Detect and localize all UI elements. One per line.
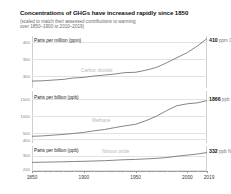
xlabel-2000: 2000 bbox=[182, 175, 193, 180]
end-unit-n2o: ppb bbox=[219, 149, 227, 154]
figure-title: Concentrations of GHGs have increased ra… bbox=[20, 9, 225, 16]
xtick-minor-1930 bbox=[115, 171, 116, 172]
xtick-minor-1970 bbox=[156, 171, 157, 172]
xtick-minor-1960 bbox=[146, 171, 147, 172]
end-species-n2o: N2O bbox=[228, 149, 231, 154]
ytick-co2-300: 300 bbox=[14, 74, 30, 79]
xlabel-1950: 1950 bbox=[130, 175, 141, 180]
end-value-label-n2o: 332 ppb N2O bbox=[209, 148, 231, 156]
xtick-1850 bbox=[32, 171, 33, 173]
ghg-concentration-figure: Concentrations of GHGs have increased ra… bbox=[0, 0, 231, 194]
panel-nitrous-oxide: Parts per billion (ppb) Nitrous oxide bbox=[32, 146, 207, 170]
xlabel-1850: 1850 bbox=[27, 175, 38, 180]
series-label-methane: Methane bbox=[92, 118, 110, 123]
end-value-n2o: 332 bbox=[209, 148, 218, 154]
xtick-1900 bbox=[84, 171, 85, 173]
xtick-1950 bbox=[136, 171, 137, 173]
end-unit-co2: ppm bbox=[219, 38, 228, 43]
figure-subtitle-line-2: over 1850–1900 to 2010–2019) bbox=[20, 24, 220, 30]
ytick-co2-400: 400 bbox=[14, 40, 30, 45]
xlabel-2019: 2019 bbox=[204, 175, 215, 180]
end-value-co2: 410 bbox=[209, 37, 218, 43]
axis-unit-label-n2o: Parts per billion (ppb) bbox=[34, 148, 79, 153]
ytick-ch4-1000: 1000 bbox=[12, 114, 30, 119]
xtick-minor-1880 bbox=[63, 171, 64, 172]
gridline-n2o-400 bbox=[32, 139, 207, 140]
axis-unit-label-ch4: Parts per billion (ppb) bbox=[34, 95, 79, 100]
ytick-ch4-500: 500 bbox=[12, 131, 30, 136]
xlabel-1900: 1900 bbox=[78, 175, 89, 180]
xtick-minor-1990 bbox=[177, 171, 178, 172]
xtick-minor-1870 bbox=[53, 171, 54, 172]
xtick-minor-1890 bbox=[74, 171, 75, 172]
ytick-ch4-1500: 1500 bbox=[12, 97, 30, 102]
xtick-minor-1910 bbox=[94, 171, 95, 172]
xtick-minor-1940 bbox=[125, 171, 126, 172]
axis-unit-label-co2: Parts per million (ppm) bbox=[34, 38, 81, 43]
end-species-co2: CO2 bbox=[229, 38, 231, 43]
xtick-minor-1980 bbox=[167, 171, 168, 172]
end-value-label-ch4: 1866 ppb CH4 bbox=[209, 96, 231, 104]
xtick-2019 bbox=[207, 171, 208, 173]
figure-subtitle: (scaled to match their assessed contribu… bbox=[20, 19, 220, 30]
x-axis-line bbox=[32, 171, 207, 172]
xtick-2000 bbox=[187, 171, 188, 173]
end-unit-ch4: ppb bbox=[222, 97, 230, 102]
ytick-co2-350: 350 bbox=[14, 57, 30, 62]
ytick-n2o-400: 400 bbox=[12, 138, 30, 143]
panel-methane: Parts per billion (ppb) Methane bbox=[32, 91, 207, 143]
ytick-n2o-200: 200 bbox=[12, 167, 30, 172]
series-label-carbon-dioxide: Carbon dioxide bbox=[81, 68, 113, 73]
end-value-label-co2: 410 ppm CO2 bbox=[209, 37, 231, 45]
series-label-nitrous-oxide: Nitrous oxide bbox=[102, 149, 129, 154]
end-value-ch4: 1866 bbox=[209, 96, 221, 102]
series-line-co2 bbox=[32, 36, 207, 88]
ytick-n2o-300: 300 bbox=[12, 153, 30, 158]
panel-carbon-dioxide: Parts per million (ppm) Carbon dioxide bbox=[32, 36, 207, 88]
xtick-minor-1920 bbox=[105, 171, 106, 172]
xtick-minor-2010 bbox=[198, 171, 199, 172]
xtick-minor-1860 bbox=[42, 171, 43, 172]
